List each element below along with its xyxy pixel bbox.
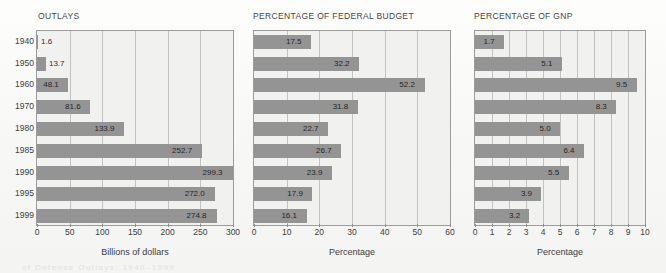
category-label: 1999 [15,208,34,222]
chart-title-federal-budget: PERCENTAGE OF FEDERAL BUDGET [253,11,414,21]
axis-tick-mark [352,224,353,227]
axis-tick-label: 300 [226,227,240,237]
category-label: 1985 [15,143,34,157]
bar[interactable] [475,209,529,223]
axis-tick-label: 10 [282,227,291,237]
bar[interactable] [254,209,307,223]
bar-row[interactable]: 13.7 [37,57,233,71]
axis-tick-label: 20 [315,227,324,237]
bar-value-label: 16.1 [281,209,297,223]
axis-tick-mark [509,224,510,227]
bar-row[interactable]: 22.7 [254,122,450,136]
axis-tick-mark [492,224,493,227]
value-axis-outlays: 050100150200250300 [36,227,234,243]
category-label: 1970 [15,99,34,113]
axis-tick-mark [475,224,476,227]
axis-tick-label: 6 [575,227,580,237]
axis-tick-mark [450,224,451,227]
plot-area-federal-budget: 17.532.252.231.822.726.723.917.916.1 [253,30,451,226]
bar-value-label: 17.5 [286,35,302,49]
bar-row[interactable]: 52.2 [254,78,450,92]
bar-row[interactable]: 272.0 [37,187,233,201]
axis-tick-label: 100 [95,227,109,237]
bar[interactable] [37,35,38,49]
bar-row[interactable]: 1.7 [475,35,645,49]
value-axis-federal-budget: 0102030405060 [253,227,451,243]
bar-row[interactable]: 48.1 [37,78,233,92]
bar-value-label: 274.8 [187,209,207,223]
bar-row[interactable]: 133.9 [37,122,233,136]
axis-tick-mark [70,224,71,227]
bar-row[interactable]: 23.9 [254,166,450,180]
bar-row[interactable]: 274.8 [37,209,233,223]
bar-value-label: 6.4 [563,144,574,158]
axis-tick-mark [200,224,201,227]
bar-row[interactable]: 17.9 [254,187,450,201]
axis-tick-mark [319,224,320,227]
category-label: 1960 [15,77,34,91]
axis-tick-label: 7 [592,227,597,237]
category-axis-outlays: 194019501960197019801985199019951999 [0,30,34,226]
bar-row[interactable]: 9.5 [475,78,645,92]
bar-value-label: 48.1 [43,78,59,92]
bar-value-label: 5.1 [541,57,552,71]
bar-row[interactable]: 32.2 [254,57,450,71]
axis-tick-mark [254,224,255,227]
axis-tick-label: 3 [524,227,529,237]
axis-tick-label: 2 [507,227,512,237]
axis-tick-label: 50 [413,227,422,237]
bar-row[interactable]: 3.9 [475,187,645,201]
axis-tick-mark [628,224,629,227]
bar-value-label: 3.9 [521,187,532,201]
axis-tick-label: 60 [445,227,454,237]
bar[interactable] [475,78,637,92]
axis-tick-mark [233,224,234,227]
axis-tick-label: 4 [541,227,546,237]
bar-row[interactable]: 8.3 [475,100,645,114]
axis-title-federal-budget: Percentage [253,247,451,257]
bar-row[interactable]: 6.4 [475,144,645,158]
bar-row[interactable]: 252.7 [37,144,233,158]
bar-row[interactable]: 16.1 [254,209,450,223]
bar[interactable] [37,57,46,71]
bar-row[interactable]: 1.6 [37,35,233,49]
bar-value-label: 3.2 [509,209,520,223]
axis-tick-mark [168,224,169,227]
bar[interactable] [254,187,312,201]
bar-value-label: 252.7 [172,144,192,158]
bar-value-label: 23.9 [307,166,323,180]
axis-tick-label: 0 [252,227,257,237]
axis-tick-label: 9 [626,227,631,237]
chart-panel-gnp: PERCENTAGE OF GNP 1.75.19.58.35.06.45.53… [460,0,666,273]
bar-row[interactable]: 3.2 [475,209,645,223]
axis-tick-mark [385,224,386,227]
bar-value-label: 272.0 [185,187,205,201]
bar-row[interactable]: 81.6 [37,100,233,114]
bar[interactable] [254,35,311,49]
bar-value-label: 1.7 [484,35,495,49]
bar-value-label: 52.2 [399,78,415,92]
axis-tick-label: 30 [347,227,356,237]
chart-title-outlays: OUTLAYS [38,11,80,21]
bar-row[interactable]: 17.5 [254,35,450,49]
axis-tick-mark [611,224,612,227]
category-label: 1990 [15,165,34,179]
bar-value-label: 9.5 [616,78,627,92]
axis-tick-mark [645,224,646,227]
axis-title-gnp: Percentage [474,247,646,257]
axis-tick-label: 50 [65,227,74,237]
page-bleed-text: of Defense Outlays: 1940–1999 [22,263,175,272]
axis-tick-mark [543,224,544,227]
axis-tick-mark [287,224,288,227]
bar-row[interactable]: 31.8 [254,100,450,114]
bar-row[interactable]: 5.0 [475,122,645,136]
bar-row[interactable]: 26.7 [254,144,450,158]
bar-row[interactable]: 5.5 [475,166,645,180]
axis-tick-mark [526,224,527,227]
bar-row[interactable]: 299.3 [37,166,233,180]
axis-tick-mark [560,224,561,227]
bar-value-label: 5.5 [548,166,559,180]
bar[interactable] [37,100,90,114]
axis-tick-mark [37,224,38,227]
bar-row[interactable]: 5.1 [475,57,645,71]
